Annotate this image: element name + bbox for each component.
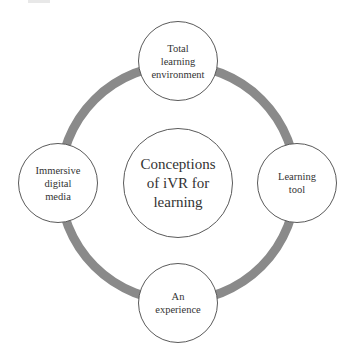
- node-label: Immersive digital media: [36, 164, 81, 203]
- node-an-experience: An experience: [138, 263, 218, 343]
- node-label: Total learning environment: [151, 42, 204, 81]
- node-immersive-digital-media: Immersive digital media: [18, 143, 98, 223]
- node-label: Learning tool: [278, 170, 316, 196]
- center-concept-node: Conceptions of iVR for learning: [123, 128, 233, 238]
- node-learning-tool: Learning tool: [257, 143, 337, 223]
- node-label: An experience: [155, 290, 200, 316]
- center-concept-label: Conceptions of iVR for learning: [141, 155, 216, 212]
- diagram-canvas: Conceptions of iVR for learning Total le…: [0, 0, 355, 364]
- node-total-learning-environment: Total learning environment: [138, 21, 218, 101]
